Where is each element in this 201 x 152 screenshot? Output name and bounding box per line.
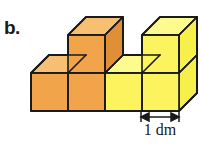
dimension-label: 1 dm bbox=[130, 122, 190, 138]
cube-front-face-bottom-col4 bbox=[142, 73, 179, 111]
dimension-arrow-head-left bbox=[141, 113, 149, 121]
cube-front-face-bottom-col1 bbox=[31, 73, 68, 111]
dimension-arrow-head-right bbox=[171, 113, 179, 121]
cube-front-face-bottom-col2 bbox=[68, 73, 105, 111]
cube-figure-screenshot: b. bbox=[0, 0, 201, 152]
cube-front-face-bottom-col3 bbox=[105, 73, 142, 111]
